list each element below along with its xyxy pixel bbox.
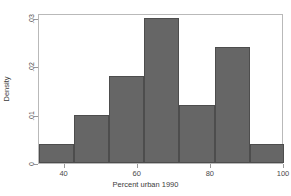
bars-container <box>39 15 282 163</box>
histogram-bar <box>39 144 74 163</box>
histogram-bar <box>179 105 214 163</box>
x-tick-label: 40 <box>59 169 67 178</box>
x-tick-label: 60 <box>133 169 141 178</box>
y-axis-title: Density <box>2 76 11 101</box>
y-tick-label: .02 <box>28 62 36 72</box>
plot-area <box>38 14 283 164</box>
x-tick-mark <box>64 164 65 168</box>
histogram-bar <box>109 76 144 163</box>
histogram-bar <box>215 47 250 163</box>
histogram-bar <box>250 144 284 163</box>
histogram-figure: Density 0.01.02.03 Percent urban 1990 40… <box>0 0 291 196</box>
x-axis-title: Percent urban 1990 <box>113 180 179 189</box>
histogram-bar <box>74 115 109 163</box>
x-tick-mark <box>137 164 138 168</box>
x-tick-label: 80 <box>206 169 214 178</box>
x-tick-label: 100 <box>277 169 290 178</box>
y-tick-label: .01 <box>28 111 36 121</box>
x-tick-mark <box>283 164 284 168</box>
histogram-bar <box>144 18 179 163</box>
x-axis: Percent urban 1990 406080100 <box>0 164 291 196</box>
x-tick-mark <box>210 164 211 168</box>
y-tick-label: .03 <box>28 14 36 24</box>
